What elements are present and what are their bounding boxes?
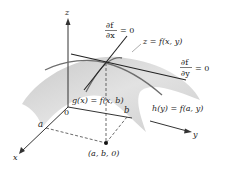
df-dy-equals: = 0 — [195, 64, 209, 73]
point-abo — [104, 141, 108, 145]
y-axis-label: y — [192, 130, 198, 139]
df-dy-numerator: ∂f — [181, 58, 189, 67]
x-axis-label: x — [13, 153, 18, 162]
dashed-a-line — [46, 128, 106, 143]
origin-label: 0 — [64, 108, 69, 117]
surface-label-pointer — [132, 44, 141, 52]
g-curve-label: g(x) = f(x, b) — [72, 96, 124, 105]
df-dx-numerator: ∂f — [106, 21, 114, 30]
point-label: (a, b, 0) — [88, 149, 119, 158]
y-axis-arrow-icon — [184, 129, 192, 134]
x-axis-arrow-icon — [19, 147, 25, 154]
h-curve-label: h(y) = f(a, y) — [152, 104, 203, 113]
tick-label-b: b — [124, 105, 129, 115]
tick-label-a: a — [38, 119, 43, 129]
dashed-b-line — [106, 117, 127, 143]
y-axis-seg2 — [150, 121, 187, 131]
df-dx-denominator: ∂x — [106, 31, 115, 40]
df-dy-denominator: ∂y — [181, 69, 190, 78]
surface-label: z = f(x, y) — [142, 37, 182, 46]
saddle-tangent-diagram: z x y 0 a b (a, b, 0) ∂f ∂x = 0 z = f(x,… — [0, 0, 227, 170]
z-axis-label: z — [64, 8, 70, 17]
df-dx-equals: = 0 — [120, 26, 134, 35]
z-axis-arrow-icon — [66, 18, 71, 25]
